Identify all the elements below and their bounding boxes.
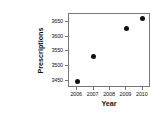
plot-area	[68, 13, 150, 87]
x-tick-label: 2009	[120, 91, 132, 97]
x-tick-label: 2008	[103, 91, 115, 97]
y-tick-label: 3450	[51, 77, 63, 83]
x-tick-mark	[125, 87, 126, 90]
y-tick-label: 3550	[51, 47, 63, 53]
x-tick-mark	[142, 87, 143, 90]
data-point	[140, 16, 145, 21]
x-tick-mark	[76, 87, 77, 90]
x-tick-label: 2006	[70, 91, 82, 97]
x-axis-title: Year	[68, 99, 150, 108]
data-point	[91, 54, 96, 59]
y-tick-label: 3650	[51, 18, 63, 24]
y-tick-label: 3500	[51, 62, 63, 68]
data-point	[124, 26, 129, 31]
chart-figure: Prescriptions 34503500355036003650 20062…	[0, 0, 160, 116]
x-tick-mark	[109, 87, 110, 90]
x-tick-label: 2007	[87, 91, 99, 97]
y-tick-label: 3600	[51, 33, 63, 39]
x-tick-label: 2010	[136, 91, 148, 97]
x-tick-mark	[93, 87, 94, 90]
data-point	[75, 79, 80, 84]
